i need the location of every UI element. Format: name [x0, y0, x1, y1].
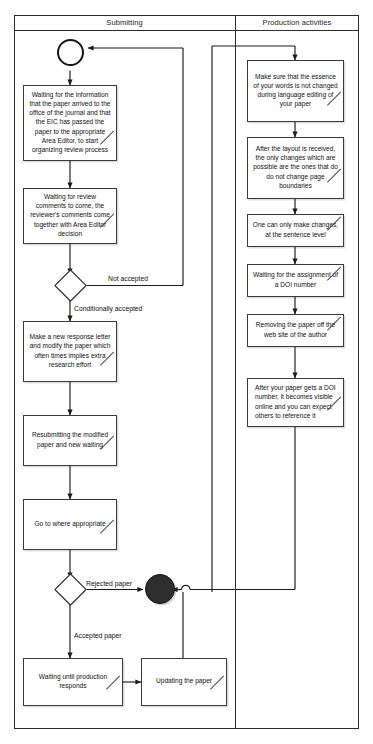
activity-note-updating-paper[interactable]: Updating the paper	[141, 658, 227, 706]
activity-text: Removing the paper off the web site of t…	[252, 320, 339, 338]
activity-text: Waiting until production responds	[28, 672, 118, 690]
edge-label-text: Rejected paper	[86, 580, 132, 587]
activity-text: One can only make changes, at the senten…	[252, 220, 339, 238]
edge-label-text: Not accepted	[108, 275, 148, 282]
note-fold-icon	[100, 533, 114, 547]
activity-text: After your paper gets a DOI number, it b…	[252, 383, 339, 420]
activity-note-new-response-letter[interactable]: Make a new response letter and modify th…	[23, 321, 117, 382]
activity-note-layout-received[interactable]: After the layout is received, the only c…	[247, 137, 344, 199]
activity-note-sentence-level-changes[interactable]: One can only make changes, at the senten…	[247, 214, 344, 247]
note-fold-icon	[210, 689, 224, 703]
lane-title-production: Production activities	[263, 18, 332, 27]
activity-note-removing-paper[interactable]: Removing the paper off the web site of t…	[247, 314, 344, 347]
lane-header-submitting: Submitting	[14, 15, 235, 31]
lane-title-submitting: Submitting	[106, 18, 142, 27]
activity-text: Resubmitting the modified paper and new …	[28, 430, 112, 448]
activity-note-waiting-information[interactable]: Waiting for the information that the pap…	[23, 85, 117, 161]
activity-text: Make a new response letter and modify th…	[28, 332, 112, 369]
activity-text: Go to where appropriate	[28, 519, 112, 528]
final-node	[145, 574, 175, 604]
edge-label-rejected-paper: Rejected paper	[86, 580, 132, 588]
activity-diagram-canvas: Submitting Production activities Waiting…	[0, 0, 373, 744]
activity-note-waiting-production[interactable]: Waiting until production responds	[23, 658, 123, 706]
activity-text: Waiting for the assignment of a DOI numb…	[252, 270, 339, 288]
edge-label-not-accepted: Not accepted	[108, 275, 148, 283]
activity-note-resubmitting[interactable]: Resubmitting the modified paper and new …	[23, 415, 117, 466]
activity-text: After the layout is received, the only c…	[252, 144, 339, 190]
activity-note-waiting-doi[interactable]: Waiting for the assignment of a DOI numb…	[247, 264, 344, 297]
activity-note-waiting-review-comments[interactable]: Waiting for review comments to come, the…	[23, 188, 117, 244]
note-fold-icon	[100, 449, 114, 463]
edge-label-text: Conditionally accepted	[74, 305, 142, 312]
lane-header-production: Production activities	[235, 15, 359, 31]
edge-label-text: Accepted paper	[74, 632, 122, 639]
lane-divider	[235, 15, 236, 729]
activity-text: Waiting for the information that the pap…	[28, 90, 112, 154]
initial-node	[57, 39, 84, 66]
edge-label-conditionally-accepted: Conditionally accepted	[74, 305, 142, 313]
activity-text: Make sure that the essence of your words…	[252, 72, 339, 109]
activity-text: Waiting for review comments to come, the…	[28, 192, 112, 238]
activity-note-essence-unchanged[interactable]: Make sure that the essence of your words…	[247, 60, 344, 122]
activity-text: Updating the paper	[146, 676, 222, 685]
edge-label-accepted-paper: Accepted paper	[74, 632, 122, 640]
activity-note-go-to-where-appropriate[interactable]: Go to where appropriate	[23, 499, 117, 550]
activity-note-doi-visible-online[interactable]: After your paper gets a DOI number, it b…	[247, 378, 344, 427]
note-fold-icon	[106, 689, 120, 703]
